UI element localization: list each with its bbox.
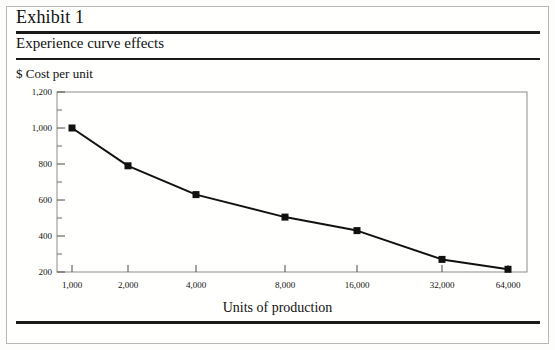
y-axis-tick-label: 400 <box>8 231 52 241</box>
data-point-marker <box>125 162 132 169</box>
x-axis-tick-label: 2,000 <box>118 280 138 290</box>
data-point-marker <box>354 227 361 234</box>
y-axis-tick-label: 1,200 <box>8 87 52 97</box>
x-axis-tick-label: 32,000 <box>430 280 455 290</box>
plot-frame <box>57 92 527 272</box>
data-point-marker <box>193 191 200 198</box>
exhibit-page: Exhibit 1 Experience curve effects $ Cos… <box>0 0 555 350</box>
x-axis-tick-label: 64,000 <box>496 280 521 290</box>
y-axis-tick-label: 600 <box>8 195 52 205</box>
y-axis-tick-label: 800 <box>8 159 52 169</box>
data-point-marker <box>505 266 512 273</box>
data-point-marker <box>282 214 289 221</box>
x-axis-title: Units of production <box>0 300 555 316</box>
x-axis-tick-label: 4,000 <box>186 280 206 290</box>
x-axis-tick-label: 1,000 <box>62 280 82 290</box>
plot-canvas <box>0 0 555 350</box>
x-axis-tick-label: 16,000 <box>345 280 370 290</box>
footer-rule-thick <box>16 321 540 324</box>
data-point-marker <box>439 256 446 263</box>
data-series-line <box>72 128 508 269</box>
experience-curve-chart: 2004006008001,0001,2001,0002,0004,0008,0… <box>0 0 555 350</box>
y-axis-tick-label: 200 <box>8 267 52 277</box>
y-axis-tick-label: 1,000 <box>8 123 52 133</box>
data-point-marker <box>69 125 76 132</box>
x-axis-tick-label: 8,000 <box>275 280 295 290</box>
